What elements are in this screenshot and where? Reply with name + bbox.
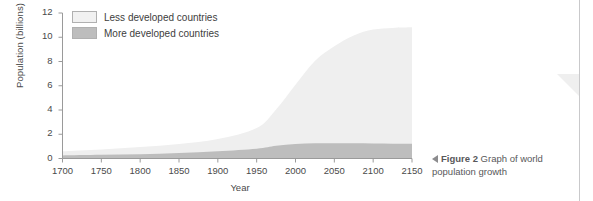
legend-swatch-less-developed <box>72 11 97 23</box>
chart-legend: Less developed countries More developed … <box>72 11 219 43</box>
y-tick-label: 0 <box>25 152 53 163</box>
legend-swatch-more-developed <box>72 27 97 39</box>
figure-page: 024681012 170017501800185019001950200020… <box>0 0 593 201</box>
legend-item-less-developed: Less developed countries <box>72 11 219 23</box>
x-tick-label: 1900 <box>198 165 238 176</box>
y-tick-label: 2 <box>25 127 53 138</box>
legend-item-more-developed: More developed countries <box>72 27 219 39</box>
y-tick-label: 4 <box>25 103 53 114</box>
left-triangle-icon <box>432 155 438 163</box>
figure-number: Figure 2 <box>441 153 478 164</box>
y-axis-ticks <box>59 13 63 159</box>
page-column-rule <box>579 0 580 201</box>
y-axis-title: Population (billions) <box>14 0 25 111</box>
x-tick-label: 2050 <box>314 165 354 176</box>
legend-label-less-developed: Less developed countries <box>104 12 217 23</box>
figure-caption: Figure 2 Graph of world population growt… <box>432 152 568 178</box>
y-tick-label: 12 <box>25 6 53 17</box>
x-tick-label: 1950 <box>237 165 277 176</box>
population-chart: 024681012 170017501800185019001950200020… <box>0 0 430 201</box>
x-axis-title: Year <box>60 182 420 193</box>
x-axis-ticks <box>63 159 413 163</box>
x-tick-label: 2100 <box>353 165 393 176</box>
x-tick-label: 2000 <box>276 165 316 176</box>
y-tick-label: 10 <box>25 30 53 41</box>
x-tick-label: 1850 <box>159 165 199 176</box>
y-tick-label: 6 <box>25 79 53 90</box>
x-tick-label: 2150 <box>392 165 432 176</box>
area-less-developed <box>63 27 413 158</box>
legend-label-more-developed: More developed countries <box>104 28 219 39</box>
x-tick-label: 1750 <box>81 165 121 176</box>
x-tick-label: 1800 <box>120 165 160 176</box>
page-corner-fold <box>557 74 579 96</box>
y-tick-label: 8 <box>25 55 53 66</box>
x-tick-label: 1700 <box>43 165 83 176</box>
